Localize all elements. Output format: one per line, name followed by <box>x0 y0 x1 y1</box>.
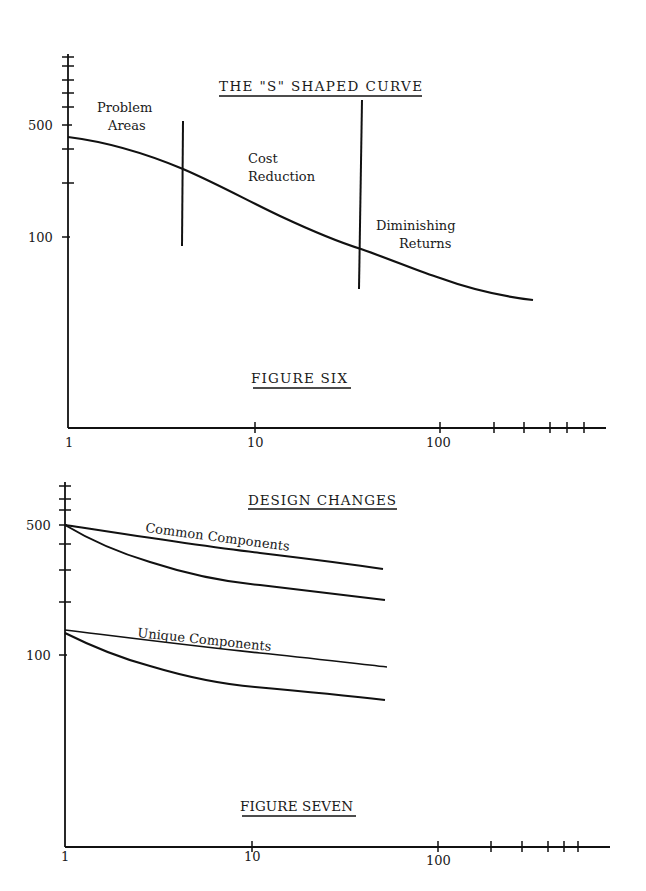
fig7-common-components-label: Common Components <box>145 520 291 554</box>
fig6-region-problem-areas-line2: Areas <box>107 118 146 133</box>
fig6-x-label-10: 10 <box>247 435 264 450</box>
fig6-s-curve <box>68 137 533 300</box>
fig7-title: DESIGN CHANGES <box>248 492 396 508</box>
fig6-x-label-1: 1 <box>65 435 73 450</box>
fig6-y-label-500: 500 <box>28 118 53 133</box>
fig7-x-label-100: 100 <box>426 853 451 868</box>
fig7-y-label-100: 100 <box>26 648 51 663</box>
fig6-title: THE "S" SHAPED CURVE <box>219 78 422 94</box>
fig6-region-diminishing-returns-line2: Returns <box>399 236 451 251</box>
fig7-caption: FIGURE SEVEN <box>240 798 353 814</box>
fig6-region-cost-reduction-line1: Cost <box>248 151 278 166</box>
fig6-region-diminishing-returns-line1: Diminishing <box>376 218 456 233</box>
figure-seven: 500 100 1 10 100 DESIGN CHANGES Common C… <box>26 482 610 868</box>
fig6-caption: FIGURE SIX <box>251 370 347 386</box>
fig7-x-label-1: 1 <box>61 849 69 864</box>
fig6-region-cost-reduction-line2: Reduction <box>248 169 316 184</box>
fig7-unique-components-label: Unique Components <box>137 625 272 654</box>
figures-canvas: 500 100 1 10 100 THE "S" SHAPED CURVE Pr… <box>0 0 646 891</box>
fig6-x-label-100: 100 <box>426 435 451 450</box>
fig6-y-label-100: 100 <box>28 230 53 245</box>
figure-six: 500 100 1 10 100 THE "S" SHAPED CURVE Pr… <box>28 54 606 450</box>
fig7-x-label-10: 10 <box>244 849 261 864</box>
fig6-region-problem-areas-line1: Problem <box>97 100 152 115</box>
fig7-y-label-500: 500 <box>26 518 51 533</box>
fig6-divider-1 <box>182 121 183 246</box>
fig6-divider-2 <box>359 100 362 289</box>
